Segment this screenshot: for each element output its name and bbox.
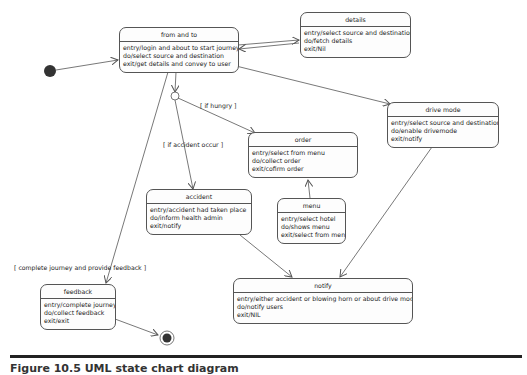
state-title: feedback bbox=[41, 285, 115, 299]
exit-action: exit/notify bbox=[150, 222, 249, 230]
state-title: order bbox=[249, 133, 357, 147]
entry-action: entry/select source and destination bbox=[391, 119, 496, 127]
entry-action: entry/select from menu bbox=[252, 149, 355, 157]
state-menu[interactable]: menu entry/select hotel do/shows menu ex… bbox=[277, 198, 346, 244]
entry-action: entry/select hotel bbox=[281, 215, 343, 223]
state-title: notify bbox=[234, 279, 412, 293]
do-action: do/shows menu bbox=[281, 223, 343, 231]
exit-action: exit/NIL bbox=[237, 311, 410, 319]
do-action: do/inform health admin bbox=[150, 214, 249, 222]
do-action: do/enable drivemode bbox=[391, 127, 496, 135]
exit-action: exit/cofirm order bbox=[252, 165, 355, 173]
state-title: from and to bbox=[120, 28, 238, 42]
state-from-and-to[interactable]: from and to entry/login and about to sta… bbox=[119, 27, 239, 73]
state-feedback[interactable]: feedback entry/complete journey do/colle… bbox=[40, 284, 116, 330]
exit-action: exit/get details and convey to user bbox=[123, 60, 236, 68]
exit-action: exit/notify bbox=[391, 135, 496, 143]
entry-action: entry/either accident or blowing horn or… bbox=[237, 295, 410, 303]
do-action: do/select source and destination bbox=[123, 52, 236, 60]
do-action: do/collect order bbox=[252, 157, 355, 165]
state-title: drive mode bbox=[388, 103, 498, 117]
state-title: accident bbox=[147, 190, 251, 204]
choice-node-icon bbox=[171, 92, 179, 100]
state-drive-mode[interactable]: drive mode entry/select source and desti… bbox=[387, 102, 499, 148]
state-details[interactable]: details entry/select source and destinat… bbox=[300, 12, 411, 58]
entry-action: entry/login and about to start journey bbox=[123, 44, 236, 52]
state-notify[interactable]: notify entry/either accident or blowing … bbox=[233, 278, 413, 324]
do-action: do/collect feedback bbox=[44, 309, 113, 317]
figure-caption: Figure 10.5 UML state chart diagram bbox=[10, 362, 239, 375]
guard-if-accident: [ if accident occur ] bbox=[163, 141, 223, 148]
entry-action: entry/select source and destination bbox=[304, 29, 408, 37]
exit-action: exit/Nil bbox=[304, 45, 408, 53]
entry-action: entry/complete journey bbox=[44, 301, 113, 309]
state-title: details bbox=[301, 13, 410, 27]
guard-if-hungry: [ if hungry ] bbox=[200, 102, 237, 109]
final-state-icon bbox=[163, 334, 172, 343]
figure-divider bbox=[10, 355, 522, 358]
state-order[interactable]: order entry/select from menu do/collect … bbox=[248, 132, 358, 178]
state-accident[interactable]: accident entry/accident had taken place … bbox=[146, 189, 252, 235]
initial-state-icon bbox=[44, 65, 56, 77]
exit-action: exit/exit bbox=[44, 317, 113, 325]
entry-action: entry/accident had taken place bbox=[150, 206, 249, 214]
exit-action: exit/select from menu bbox=[281, 231, 343, 239]
guard-complete-journey: [ complete journey and provide feedback … bbox=[14, 264, 146, 271]
state-title: menu bbox=[278, 199, 345, 213]
do-action: do/fetch details bbox=[304, 37, 408, 45]
do-action: do/notify users bbox=[237, 303, 410, 311]
